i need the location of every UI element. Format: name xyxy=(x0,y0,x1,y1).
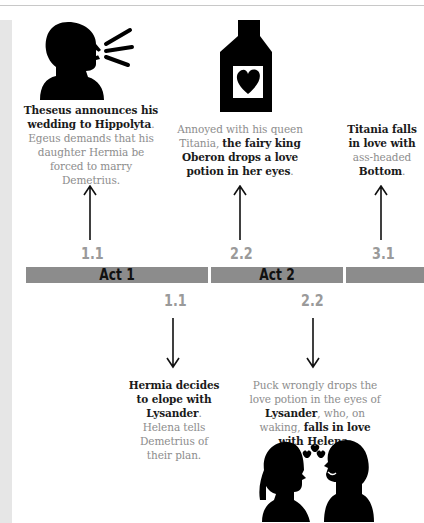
event-caption-3-1-upper: Titania falls in love with ass-headed Bo… xyxy=(340,122,424,178)
caption-text: . xyxy=(290,165,293,177)
side-strip xyxy=(0,20,12,523)
up-arrow-icon xyxy=(374,185,388,241)
love-potion-bottle-icon xyxy=(220,18,276,112)
up-arrow-icon xyxy=(233,185,247,241)
event-caption-1-1-upper: Theseus announces his wedding to Hippoly… xyxy=(20,103,162,187)
event-caption-1-1-lower: Hermia decides to elope with Lysander. H… xyxy=(126,378,222,462)
top-divider xyxy=(0,5,424,6)
scene-number-lower-2-2: 2.2 xyxy=(301,291,324,310)
caption-text: . xyxy=(402,165,405,177)
down-arrow-icon xyxy=(306,317,320,369)
speaking-person-icon xyxy=(38,20,138,102)
act-2-bar: Act 2 xyxy=(211,267,343,283)
act-1-label: Act 1 xyxy=(42,266,191,284)
caption-bold: Titania falls in love with xyxy=(347,123,416,149)
act-1-bar: Act 1 xyxy=(26,267,208,283)
act-3-bar xyxy=(346,267,424,283)
scene-number-lower-1-1: 1.1 xyxy=(164,291,187,310)
up-arrow-icon xyxy=(83,185,97,241)
scene-number-upper-2-2: 2.2 xyxy=(230,244,253,263)
event-caption-2-2-upper: Annoyed with his queen Titania, the fair… xyxy=(172,122,308,178)
caption-text: Puck wrongly drops the love potion in th… xyxy=(250,379,381,405)
caption-bold: Theseus announces his wedding to Hippoly… xyxy=(24,104,158,130)
caption-bold: Hermia decides to elope with Lysander xyxy=(129,379,220,419)
caption-bold: Bottom xyxy=(359,165,402,177)
act-2-label: Act 2 xyxy=(223,266,331,284)
scene-number-upper-3-1: 3.1 xyxy=(372,244,395,263)
caption-bold: Lysander xyxy=(265,407,317,419)
down-arrow-icon xyxy=(166,317,180,369)
caption-text: ass-headed xyxy=(353,151,411,163)
couple-in-love-icon xyxy=(258,438,376,523)
scene-number-upper-1-1: 1.1 xyxy=(81,244,104,263)
